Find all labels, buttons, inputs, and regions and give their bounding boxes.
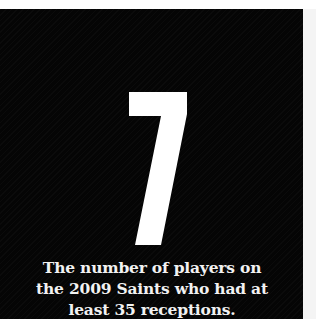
stat-caption: The number of players on the 2009 Saints…	[10, 257, 294, 319]
caption-line: The number of players on	[10, 257, 294, 278]
page-edge	[303, 9, 316, 319]
caption-line: least 35 receptions.	[10, 299, 294, 319]
stat-number-seven	[127, 92, 189, 245]
caption-line: the 2009 Saints who had at	[10, 278, 294, 299]
